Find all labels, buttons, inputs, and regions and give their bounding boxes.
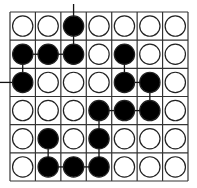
- white-stone-cell[interactable]: [38, 72, 58, 92]
- white-stone-cell[interactable]: [165, 72, 185, 92]
- white-stone-cell[interactable]: [38, 100, 58, 120]
- white-stone-cell[interactable]: [89, 16, 109, 36]
- white-stone-cell[interactable]: [140, 44, 160, 64]
- puzzle-board: [10, 12, 188, 181]
- black-stone-cell[interactable]: [114, 72, 134, 92]
- white-stone-cell[interactable]: [140, 157, 160, 177]
- black-stone-cell[interactable]: [63, 44, 83, 64]
- white-stone-cell[interactable]: [89, 72, 109, 92]
- white-stone-cell[interactable]: [13, 16, 33, 36]
- white-stone-cell[interactable]: [63, 72, 83, 92]
- black-stone-cell[interactable]: [89, 157, 109, 177]
- board-grid: [10, 12, 188, 181]
- white-stone-cell[interactable]: [140, 129, 160, 149]
- black-stone-cell[interactable]: [38, 157, 58, 177]
- white-stone-cell[interactable]: [114, 129, 134, 149]
- white-stone-cell[interactable]: [38, 16, 58, 36]
- white-stone-cell[interactable]: [165, 129, 185, 149]
- black-stone-cell[interactable]: [38, 129, 58, 149]
- black-stone-cell[interactable]: [89, 129, 109, 149]
- black-stone-cell[interactable]: [140, 72, 160, 92]
- black-stone-cell[interactable]: [13, 72, 33, 92]
- white-stone-cell[interactable]: [13, 100, 33, 120]
- white-stone-cell[interactable]: [114, 157, 134, 177]
- white-stone-cell[interactable]: [165, 16, 185, 36]
- black-stone-cell[interactable]: [63, 16, 83, 36]
- white-stone-cell[interactable]: [114, 16, 134, 36]
- black-stone-cell[interactable]: [140, 100, 160, 120]
- white-stone-cell[interactable]: [13, 157, 33, 177]
- black-stone-cell[interactable]: [114, 100, 134, 120]
- white-stone-cell[interactable]: [165, 100, 185, 120]
- white-stone-cell[interactable]: [89, 44, 109, 64]
- black-stone-cell[interactable]: [38, 44, 58, 64]
- white-stone-cell[interactable]: [140, 16, 160, 36]
- white-stone-cell[interactable]: [165, 157, 185, 177]
- black-stone-cell[interactable]: [63, 157, 83, 177]
- black-stone-cell[interactable]: [114, 44, 134, 64]
- white-stone-cell[interactable]: [63, 129, 83, 149]
- black-stone-cell[interactable]: [89, 100, 109, 120]
- white-stone-cell[interactable]: [13, 129, 33, 149]
- white-stone-cell[interactable]: [165, 44, 185, 64]
- white-stone-cell[interactable]: [63, 100, 83, 120]
- black-stone-cell[interactable]: [13, 44, 33, 64]
